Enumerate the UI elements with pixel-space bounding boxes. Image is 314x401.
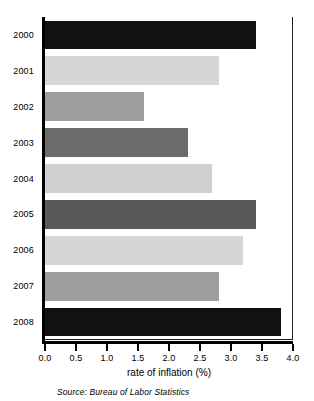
bar-row: [45, 308, 293, 337]
bar-2003: [45, 128, 188, 157]
y-axis-line: [42, 17, 45, 342]
y-tick-label-2003: 2003: [0, 138, 38, 148]
x-tick-3.5: [261, 344, 263, 351]
y-tick-label-2001: 2001: [0, 66, 38, 76]
x-tick-2.5: [199, 344, 201, 351]
x-axis-title: rate of inflation (%): [45, 367, 293, 379]
bar-row: [45, 200, 293, 229]
bar-row: [45, 128, 293, 157]
x-tick-label-4.0: 4.0: [273, 353, 313, 364]
bar-2002: [45, 92, 144, 121]
bar-row: [45, 92, 293, 121]
bar-2008: [45, 308, 281, 337]
inflation-bar-chart: 200020012002200320042005200620072008 0.0…: [0, 0, 314, 401]
x-tick-0.0: [44, 344, 46, 351]
y-tick-label-2005: 2005: [0, 209, 38, 219]
bar-2001: [45, 56, 219, 85]
y-tick-label-2000: 2000: [0, 30, 38, 40]
bar-2000: [45, 21, 256, 50]
x-tick-3.0: [230, 344, 232, 351]
bar-row: [45, 236, 293, 265]
bar-row: [45, 164, 293, 193]
source-note: Source: Bureau of Labor Statistics: [57, 387, 189, 397]
bar-2005: [45, 200, 256, 229]
y-axis-tick-labels: 200020012002200320042005200620072008: [0, 17, 38, 340]
x-tick-2.0: [168, 344, 170, 351]
bar-2004: [45, 164, 212, 193]
y-tick-label-2008: 2008: [0, 317, 38, 327]
x-tick-0.5: [75, 344, 77, 351]
bar-row: [45, 272, 293, 301]
bar-series: [45, 17, 293, 340]
y-tick-label-2002: 2002: [0, 102, 38, 112]
bar-row: [45, 56, 293, 85]
x-tick-1.5: [137, 344, 139, 351]
bar-row: [45, 21, 293, 50]
bar-2007: [45, 272, 219, 301]
x-tick-1.0: [106, 344, 108, 351]
x-axis-tick-labels: 0.00.51.01.52.02.53.03.54.0: [0, 353, 314, 365]
y-tick-label-2007: 2007: [0, 281, 38, 291]
y-tick-label-2006: 2006: [0, 245, 38, 255]
bar-2006: [45, 236, 243, 265]
y-tick-label-2004: 2004: [0, 174, 38, 184]
x-tick-4.0: [292, 344, 294, 351]
x-axis-ticks: [45, 344, 293, 351]
